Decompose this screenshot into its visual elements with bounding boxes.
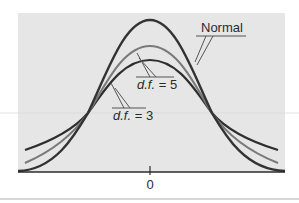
df3-label: d.f. = 3 <box>113 108 153 123</box>
plot-panel <box>18 13 285 172</box>
normal-label: Normal <box>201 20 243 35</box>
t-distribution-chart: 0 Normal d.f. = 5 d.f. = 3 <box>0 0 299 203</box>
zero-tick-label: 0 <box>146 177 153 192</box>
df5-label: d.f. = 5 <box>137 77 177 92</box>
